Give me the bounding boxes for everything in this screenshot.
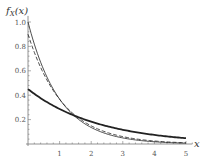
y-tick-label: 0.8 <box>15 43 26 51</box>
x-axis-label: x <box>194 138 200 149</box>
y-tick-label: 0.4 <box>15 92 27 100</box>
x-tick-label: 2 <box>89 150 93 158</box>
x-tick-label: 5 <box>184 150 188 158</box>
curve-thin-solid <box>28 22 186 143</box>
x-tick-label: 1 <box>57 150 61 158</box>
y-axis-label: fX(x) <box>5 5 28 18</box>
x-tick-label: 3 <box>121 150 125 158</box>
curves <box>28 22 186 143</box>
x-tick-label: 4 <box>152 150 157 158</box>
y-tick-label: 0.2 <box>15 116 26 124</box>
density-chart: 123450.20.40.60.81.0 fX(x) x <box>0 0 207 164</box>
curve-thick-solid <box>28 89 186 138</box>
y-tick-label: 1.0 <box>15 19 26 27</box>
y-tick-label: 0.6 <box>15 67 27 75</box>
